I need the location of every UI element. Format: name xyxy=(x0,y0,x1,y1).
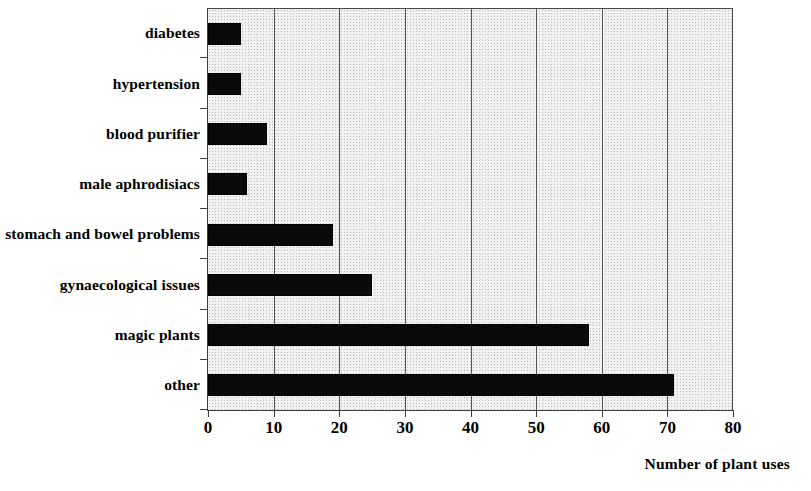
bar xyxy=(208,374,674,396)
x-axis-tick-label: 10 xyxy=(265,418,282,438)
y-axis-tick xyxy=(199,58,208,108)
x-axis-tick xyxy=(536,411,537,417)
y-axis-tick xyxy=(199,109,208,159)
x-axis-tick xyxy=(602,411,603,417)
y-axis-category-labels: diabetes hypertension blood purifier mal… xyxy=(0,8,205,410)
y-axis-label-row: magic plants xyxy=(0,310,205,360)
x-axis-tick-labels: 01020304050607080 xyxy=(208,418,734,442)
bar-row xyxy=(208,109,732,159)
x-axis-tick xyxy=(733,411,734,417)
y-axis-tick-label: magic plants xyxy=(115,326,200,343)
x-axis-tick-label: 40 xyxy=(462,418,479,438)
bar xyxy=(208,73,241,95)
y-axis-label-row: gynaecological issues xyxy=(0,259,205,309)
plot-area xyxy=(208,8,733,410)
bar xyxy=(208,324,589,346)
y-axis-label-row: other xyxy=(0,360,205,410)
x-axis-tick xyxy=(405,411,406,417)
y-axis-tick-label: other xyxy=(164,376,200,393)
y-axis-tick-label: diabetes xyxy=(145,24,200,41)
y-axis-label-row: diabetes xyxy=(0,8,205,58)
x-axis-ticks xyxy=(208,411,734,418)
x-axis-tick xyxy=(339,411,340,417)
bar xyxy=(208,224,333,246)
bar-chart: diabetes hypertension blood purifier mal… xyxy=(0,0,811,491)
y-axis-tick xyxy=(199,310,208,360)
bar-row xyxy=(208,59,732,109)
x-axis-tick-label: 0 xyxy=(204,418,213,438)
y-axis-tick-label: hypertension xyxy=(113,75,200,92)
y-axis-tick xyxy=(199,159,208,209)
y-axis-tick-label: blood purifier xyxy=(106,125,200,142)
x-axis-tick-label: 50 xyxy=(528,418,545,438)
bar xyxy=(208,123,267,145)
y-axis-label-row: male aphrodisiacs xyxy=(0,159,205,209)
x-axis-tick xyxy=(667,411,668,417)
bar-row xyxy=(208,159,732,209)
x-axis-tick-label: 80 xyxy=(725,418,742,438)
x-axis-tick-label: 60 xyxy=(593,418,610,438)
y-axis-label-row: stomach and bowel problems xyxy=(0,209,205,259)
bar-row xyxy=(208,360,732,410)
y-axis-label-row: hypertension xyxy=(0,58,205,108)
y-axis-tick-label: male aphrodisiacs xyxy=(79,175,200,192)
y-axis-tick-label: stomach and bowel problems xyxy=(5,225,200,242)
x-axis-tick-label: 30 xyxy=(396,418,413,438)
bar-row xyxy=(208,310,732,360)
y-axis-tick xyxy=(199,209,208,259)
x-axis-tick-label: 20 xyxy=(331,418,348,438)
x-axis-tick-label: 70 xyxy=(659,418,676,438)
bar-row xyxy=(208,260,732,310)
x-axis-title: Number of plant uses xyxy=(380,455,790,473)
y-axis-tick xyxy=(199,259,208,309)
x-axis-tick xyxy=(274,411,275,417)
x-axis-tick xyxy=(208,411,209,417)
y-axis-tick-label: gynaecological issues xyxy=(60,276,200,293)
bar xyxy=(208,173,247,195)
y-axis-tick xyxy=(199,8,208,58)
y-axis-ticks xyxy=(199,8,208,410)
y-axis-label-row: blood purifier xyxy=(0,109,205,159)
bar xyxy=(208,274,372,296)
x-axis-tick xyxy=(471,411,472,417)
bar-row xyxy=(208,210,732,260)
bar xyxy=(208,23,241,45)
bar-row xyxy=(208,9,732,59)
bar-series xyxy=(208,9,732,410)
y-axis-tick xyxy=(199,360,208,410)
